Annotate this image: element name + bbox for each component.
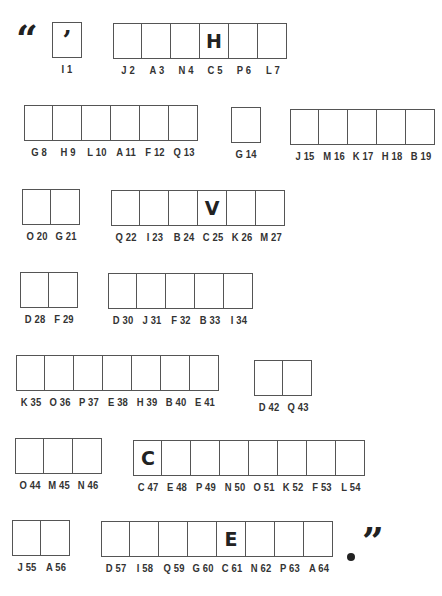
word-group: J 2A 3N 4HC 5P 6L 7 xyxy=(113,23,287,59)
letter-cell: A 56 xyxy=(41,520,70,556)
letter-cell: P 63 xyxy=(275,521,304,557)
cell-label: F 29 xyxy=(47,313,81,325)
letter-box[interactable] xyxy=(335,440,365,476)
letter-box[interactable] xyxy=(226,190,256,226)
letter-box[interactable] xyxy=(282,360,312,396)
letter-box[interactable] xyxy=(219,440,249,476)
letter-box[interactable] xyxy=(15,438,45,474)
letter-box[interactable] xyxy=(141,23,171,59)
letter-box[interactable] xyxy=(20,272,50,308)
letter-box[interactable] xyxy=(22,189,52,225)
letter-box[interactable] xyxy=(129,521,159,557)
close-quote-mark: ” xyxy=(362,522,384,560)
letter-box[interactable] xyxy=(16,355,46,391)
letter-box[interactable]: E xyxy=(216,521,246,557)
letter-box[interactable] xyxy=(139,105,169,141)
word-group: ’I 1 xyxy=(52,22,81,58)
cell-label: G 14 xyxy=(229,148,263,160)
letter-box[interactable] xyxy=(318,109,348,145)
letter-cell: J 55 xyxy=(12,520,41,556)
letter-cell: N 4 xyxy=(171,23,200,59)
letter-box[interactable] xyxy=(189,355,219,391)
letter-box[interactable] xyxy=(160,355,190,391)
letter-box[interactable]: C xyxy=(133,440,163,476)
letter-cell: M 45 xyxy=(44,438,73,474)
letter-box[interactable] xyxy=(165,273,195,309)
letter-cell: K 35 xyxy=(16,355,45,391)
letter-box[interactable] xyxy=(101,521,131,557)
word-group: G 8H 9L 10A 11F 12Q 13 xyxy=(24,105,198,141)
letter-cell: CC 47 xyxy=(133,440,162,476)
letter-box[interactable] xyxy=(187,521,217,557)
letter-box[interactable] xyxy=(139,190,169,226)
letter-box[interactable] xyxy=(277,440,307,476)
letter-box[interactable] xyxy=(347,109,377,145)
letter-box[interactable] xyxy=(113,23,143,59)
cell-label: G 21 xyxy=(49,230,83,242)
letter-box[interactable] xyxy=(376,109,406,145)
letter-box[interactable] xyxy=(274,521,304,557)
letter-box[interactable]: H xyxy=(199,23,229,59)
cell-label: E 41 xyxy=(188,396,222,408)
letter-box[interactable] xyxy=(131,355,161,391)
cell-label: I 34 xyxy=(222,314,256,326)
letter-box[interactable] xyxy=(255,190,285,226)
letter-box[interactable] xyxy=(102,355,132,391)
word-group: J 55A 56 xyxy=(12,520,70,556)
letter-box[interactable] xyxy=(111,190,141,226)
letter-box[interactable] xyxy=(12,520,42,556)
letter-box[interactable] xyxy=(72,438,102,474)
word-group: O 20G 21 xyxy=(22,189,80,225)
letter-cell: N 50 xyxy=(220,440,249,476)
letter-box[interactable] xyxy=(52,105,82,141)
letter-box[interactable] xyxy=(303,521,333,557)
letter-box[interactable] xyxy=(158,521,188,557)
letter-box[interactable] xyxy=(50,189,80,225)
letter-box[interactable] xyxy=(170,23,200,59)
cell-label: N 46 xyxy=(71,479,105,491)
letter-box[interactable] xyxy=(136,273,166,309)
letter-box[interactable] xyxy=(190,440,220,476)
letter-box[interactable] xyxy=(248,440,278,476)
letter-box[interactable] xyxy=(48,272,78,308)
letter-box[interactable] xyxy=(245,521,275,557)
letter-box[interactable] xyxy=(110,105,140,141)
letter-box[interactable]: ’ xyxy=(52,22,82,58)
letter-cell: EC 61 xyxy=(217,521,246,557)
letter-box[interactable] xyxy=(223,273,253,309)
letter-box[interactable] xyxy=(168,190,198,226)
letter-box[interactable] xyxy=(81,105,111,141)
letter-cell: F 29 xyxy=(49,272,78,308)
letter-box[interactable] xyxy=(73,355,103,391)
letter-cell: B 19 xyxy=(406,109,435,145)
letter-cell: K 52 xyxy=(278,440,307,476)
letter-box[interactable] xyxy=(290,109,320,145)
letter-box[interactable] xyxy=(306,440,336,476)
letter-cell: I 23 xyxy=(140,190,169,226)
letter-box[interactable] xyxy=(43,438,73,474)
letter-box[interactable] xyxy=(44,355,74,391)
letter-box[interactable] xyxy=(228,23,258,59)
letter-box[interactable] xyxy=(194,273,224,309)
letter-cell: K 26 xyxy=(227,190,256,226)
letter-cell: P 49 xyxy=(191,440,220,476)
letter-cell: VC 25 xyxy=(198,190,227,226)
letter-box[interactable] xyxy=(40,520,70,556)
letter-box[interactable] xyxy=(24,105,54,141)
letter-box[interactable] xyxy=(231,107,261,143)
letter-box[interactable] xyxy=(108,273,138,309)
cell-label: A 56 xyxy=(39,561,73,573)
cell-label: Q 13 xyxy=(167,146,201,158)
letter-box[interactable] xyxy=(405,109,435,145)
letter-cell: A 64 xyxy=(304,521,333,557)
letter-cell: K 17 xyxy=(348,109,377,145)
letter-box[interactable] xyxy=(257,23,287,59)
letter-box[interactable]: V xyxy=(197,190,227,226)
letter-cell: E 41 xyxy=(190,355,219,391)
letter-box[interactable] xyxy=(254,360,284,396)
letter-cell: B 33 xyxy=(195,273,224,309)
letter-box[interactable] xyxy=(161,440,191,476)
letter-box[interactable] xyxy=(168,105,198,141)
letter-cell: A 3 xyxy=(142,23,171,59)
letter-cell: P 37 xyxy=(74,355,103,391)
